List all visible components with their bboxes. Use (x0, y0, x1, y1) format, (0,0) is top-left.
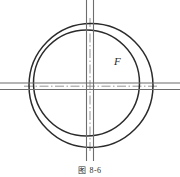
outer-circle (29, 24, 153, 148)
technical-drawing-figure: F 图 8-6 (0, 0, 180, 177)
figure-canvas (0, 0, 180, 177)
figure-caption: 图 8-6 (0, 166, 180, 176)
force-label-F: F (114, 56, 121, 67)
